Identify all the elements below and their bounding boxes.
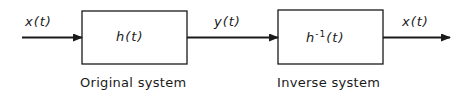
inverse-label-argument: (t): [326, 30, 344, 45]
inverse-system-label: h-1(t): [306, 29, 344, 45]
inverse-label-base: h: [306, 30, 315, 45]
inverse-label-superscript: -1: [315, 29, 326, 39]
inverse-system-caption: Inverse system: [277, 75, 380, 90]
intermediate-signal-label: y(t): [214, 14, 241, 29]
original-system-caption: Original system: [80, 75, 187, 90]
output-signal-label: x(t): [402, 14, 429, 29]
original-system-label: h(t): [116, 29, 143, 44]
input-signal-label: x(t): [25, 14, 52, 29]
